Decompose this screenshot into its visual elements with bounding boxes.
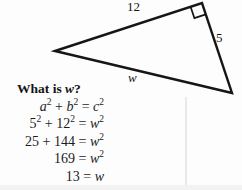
equation-line-answer: 13 = w xyxy=(0,168,104,185)
equation-line-squares: 25 + 144 = w2 xyxy=(0,133,104,150)
equation-line-sum: 169 = w2 xyxy=(0,150,104,167)
triangle-outline xyxy=(55,3,232,93)
equation-line-substitution: 52 + 122 = w2 xyxy=(0,115,104,132)
equation-block: a2 + b2 = c2 52 + 122 = w2 25 + 144 = w2… xyxy=(0,98,104,185)
scan-fold-line xyxy=(185,97,187,190)
side-label-top: 12 xyxy=(127,0,140,14)
side-label-hypotenuse: w xyxy=(128,71,137,85)
side-label-right: 5 xyxy=(216,31,223,45)
question-text: What is w? xyxy=(17,81,81,96)
equation-line-pythagorean: a2 + b2 = c2 xyxy=(0,98,104,115)
scan-shading xyxy=(0,185,242,190)
worksheet-page: 12 5 w What is w? a2 + b2 = c2 52 + 122 … xyxy=(0,0,242,190)
